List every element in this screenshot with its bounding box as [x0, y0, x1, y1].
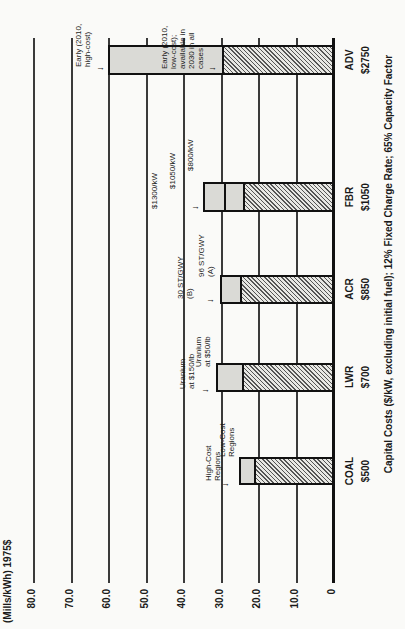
category-cost-lwr: $700: [360, 347, 371, 407]
bar-acr-upper: [222, 277, 240, 302]
bar-adv: [108, 45, 334, 75]
gridline-80: [33, 38, 35, 583]
y-tick-40: 40.0: [176, 589, 187, 629]
x-axis-title: Capital Costs ($/kW, excluding initial f…: [383, 44, 394, 484]
category-label-adv: ADV: [344, 30, 355, 90]
annotation-fbr-high: $1300/kW: [150, 173, 159, 209]
category-cost-acr: $850: [360, 259, 371, 319]
annotation-acr-low: 96 ST/GWY (A): [197, 234, 215, 277]
bar-fbr-upper: [205, 184, 224, 210]
bar-lwr-upper: [218, 365, 242, 390]
bar-acr: [220, 275, 334, 304]
bar-lwr: [216, 363, 334, 392]
bar-adv-lower: [222, 47, 332, 73]
gridline-60: [108, 38, 110, 583]
y-tick-80: 80.0: [26, 589, 37, 629]
y-axis-title: (Mills/kWh) 1975$: [2, 540, 13, 623]
gridline-50: [146, 38, 148, 583]
annotation-fbr-middle: $1050/kW: [168, 153, 177, 189]
bar-lwr-lower: [242, 365, 332, 390]
bar-acr-lower: [240, 277, 332, 302]
annotation-adv-low: Early (2010, low-cost); available in 203…: [160, 26, 205, 69]
bar-coal-upper: [241, 459, 254, 483]
bar-fbr-middle: [224, 184, 243, 210]
arrow-down-icon: ↓: [96, 67, 105, 72]
category-label-coal: COAL: [344, 441, 355, 501]
annotation-adv-high: Early (2010, high-cost): [74, 24, 92, 67]
arrow-down-icon: ↓: [221, 483, 230, 488]
category-label-acr: ACR: [344, 259, 355, 319]
y-tick-50: 50.0: [139, 589, 150, 629]
annotation-lwr-low: Uranium at $50/lb: [194, 336, 212, 367]
y-tick-60: 60.0: [101, 589, 112, 629]
bar-coal: [239, 457, 334, 485]
arrow-down-icon: ↓: [191, 206, 200, 211]
y-tick-20: 20.0: [251, 589, 262, 629]
chart-canvas: (Mills/kWh) 1975$ 0 10.0 20.0 30.0 40.0 …: [0, 0, 405, 629]
y-tick-30: 30.0: [214, 589, 225, 629]
gridline-40: [183, 38, 185, 583]
arrow-down-icon: ↓: [208, 67, 217, 72]
gridline-20: [258, 38, 260, 583]
annotation-acr-high: 30 ST/GWY (B): [176, 256, 194, 299]
category-label-lwr: LWR: [344, 347, 355, 407]
x-axis-baseline: [332, 38, 335, 583]
category-label-fbr: FBR: [344, 167, 355, 227]
category-cost-fbr: $1050: [360, 167, 371, 227]
y-tick-70: 70.0: [64, 589, 75, 629]
bar-fbr: [203, 182, 334, 212]
arrow-down-icon: ↓: [206, 299, 215, 304]
category-cost-coal: $500: [360, 441, 371, 501]
category-cost-adv: $2750: [360, 30, 371, 90]
annotation-coal-low-text: Low-Cost Regions: [218, 423, 236, 457]
arrow-down-icon: ↓: [201, 389, 210, 394]
y-tick-0: 0: [326, 589, 337, 629]
bar-fbr-lower: [243, 184, 332, 210]
annotation-fbr-low: $800/kW: [186, 139, 195, 171]
gridline-10: [296, 38, 298, 583]
gridline-70: [71, 38, 73, 583]
y-tick-10: 10.0: [289, 589, 300, 629]
bar-coal-lower: [254, 459, 332, 483]
gridline-30: [221, 38, 223, 583]
